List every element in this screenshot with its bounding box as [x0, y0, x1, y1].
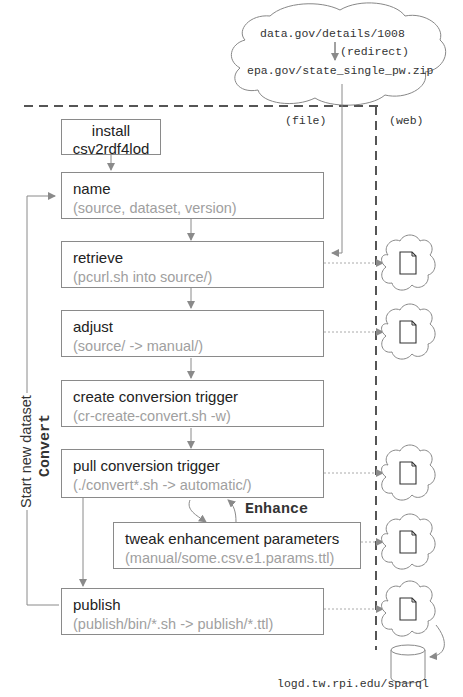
- web-cloud-adjust: [382, 304, 436, 359]
- web-cloud-retrieve: [382, 235, 436, 290]
- step-detail: (publish/bin/*.sh -> publish/*.ttl): [73, 616, 273, 632]
- web-cloud-publish: [382, 581, 436, 636]
- step-title: publish: [73, 596, 121, 613]
- step-pull-conversion-trigger: pull conversion trigger (./convert*.sh -…: [61, 449, 324, 498]
- step-tweak-enhancement-parameters: tweak enhancement parameters (manual/som…: [113, 522, 361, 569]
- install-box: install csv2rdf4lod: [61, 119, 161, 155]
- step-title: adjust: [73, 318, 113, 335]
- step-detail: (source, dataset, version): [73, 200, 237, 216]
- step-title: pull conversion trigger: [73, 457, 220, 474]
- step-title: retrieve: [73, 249, 123, 266]
- step-detail: (pcurl.sh into source/): [73, 269, 212, 285]
- step-name: name (source, dataset, version): [61, 172, 324, 219]
- web-cloud-convert: [382, 445, 436, 500]
- file-region-label: (file): [285, 114, 326, 127]
- start-new-dataset-label: Start new dataset: [18, 393, 34, 510]
- step-title: name: [73, 180, 111, 197]
- source-url: data.gov/details/1008: [260, 27, 405, 40]
- step-detail: (cr-create-convert.sh -w): [73, 408, 231, 424]
- install-label: install: [62, 122, 160, 140]
- step-publish: publish (publish/bin/*.sh -> publish/*.t…: [61, 588, 324, 635]
- step-retrieve: retrieve (pcurl.sh into source/): [61, 241, 324, 288]
- convert-label: Convert: [37, 414, 54, 477]
- web-region-label: (web): [389, 114, 424, 127]
- step-detail: (./convert*.sh -> automatic/): [73, 477, 252, 493]
- redirect-label: (redirect): [340, 45, 409, 58]
- enhance-label: Enhance: [245, 501, 308, 518]
- step-detail: (manual/some.csv.e1.params.ttl): [125, 550, 334, 566]
- web-cloud-enhance: [382, 514, 436, 569]
- zip-url: epa.gov/state_single_pw.zip: [247, 64, 433, 77]
- step-detail: (source/ -> manual/): [73, 338, 203, 354]
- step-title: create conversion trigger: [73, 388, 238, 405]
- step-adjust: adjust (source/ -> manual/): [61, 310, 324, 357]
- step-title: tweak enhancement parameters: [125, 530, 339, 547]
- sparql-endpoint-label: logd.tw.rpi.edu/sparql: [277, 677, 429, 690]
- step-create-conversion-trigger: create conversion trigger (cr-create-con…: [61, 380, 324, 427]
- source-cloud: [231, 3, 445, 105]
- install-package: csv2rdf4lod: [62, 140, 160, 158]
